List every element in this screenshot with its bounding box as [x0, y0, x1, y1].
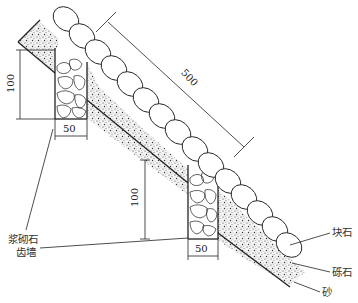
lower-height-dimension [140, 160, 150, 239]
block-stone-label: 块石 [332, 226, 352, 239]
slope-protection-diagram [0, 0, 358, 303]
retaining-wall-label-line2: 齿墙 [16, 246, 36, 259]
sand-label: 砂 [322, 286, 332, 299]
upper-height-label: 100 [5, 74, 16, 93]
gravel-label: 砾石 [332, 266, 352, 279]
lower-height-label-text: 100 [129, 188, 140, 207]
retaining-wall-label-line1: 浆砌石 [8, 233, 38, 246]
lower-width-label: 50 [195, 243, 208, 254]
upper-toe-wall [55, 48, 87, 119]
upper-width-label: 50 [63, 123, 76, 134]
